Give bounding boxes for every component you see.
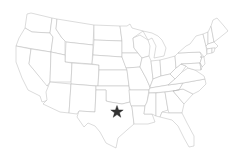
state-south-dakota [93,40,122,57]
state-washington [25,13,52,33]
us-map [0,0,242,162]
state-connecticut [207,48,212,54]
state-maine [211,18,228,42]
us-states-map [0,0,242,162]
state-iowa [122,53,142,68]
state-kansas [98,70,129,86]
state-new-mexico [69,84,96,114]
state-colorado [71,63,99,86]
state-florida [160,112,194,147]
state-indiana [151,60,161,79]
state-north-dakota [94,25,122,41]
state-wyoming [65,42,93,64]
state-rhode-island [212,48,215,53]
